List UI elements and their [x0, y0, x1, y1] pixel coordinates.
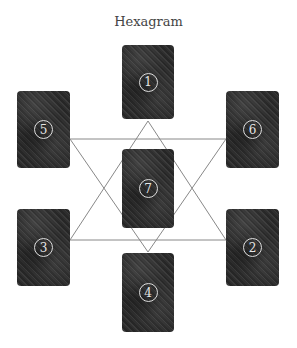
- card-number-3: 3: [34, 238, 53, 257]
- card-number-2: 2: [243, 238, 262, 257]
- card-6[interactable]: 6: [226, 91, 279, 168]
- card-4[interactable]: 4: [122, 253, 174, 332]
- card-5[interactable]: 5: [17, 91, 70, 168]
- card-number-7: 7: [139, 179, 158, 198]
- card-number-4: 4: [139, 283, 158, 302]
- card-number-5: 5: [34, 120, 53, 139]
- card-7[interactable]: 7: [122, 149, 174, 228]
- card-number-1: 1: [139, 73, 158, 92]
- card-1[interactable]: 1: [122, 45, 174, 119]
- card-3[interactable]: 3: [17, 209, 70, 286]
- card-2[interactable]: 2: [226, 209, 279, 286]
- card-number-6: 6: [243, 120, 262, 139]
